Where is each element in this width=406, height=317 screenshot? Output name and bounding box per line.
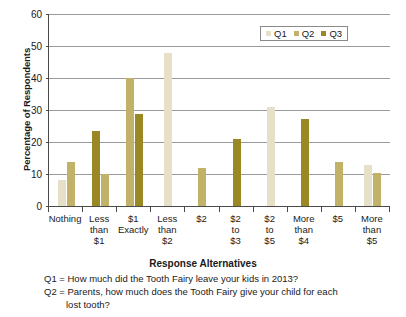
legend-item-q2[interactable]: Q2: [294, 28, 315, 39]
bar-group: [356, 14, 390, 206]
bar-group: [117, 14, 151, 206]
legend-label: Q1: [274, 28, 287, 39]
x-label-line: $2: [150, 235, 184, 246]
y-axis-ticks: 0102030405060: [16, 14, 46, 206]
x-label-line: $4: [287, 235, 321, 246]
bar-group: [49, 14, 83, 206]
x-label-line: Nothing: [48, 213, 82, 224]
bar-group: [185, 14, 219, 206]
x-label-line: than: [82, 224, 116, 235]
bar[interactable]: [233, 139, 241, 206]
y-tick-label-40: 40: [16, 73, 42, 84]
bar[interactable]: [58, 180, 66, 206]
x-label-line: Less: [150, 213, 184, 224]
x-label-line: to: [253, 224, 287, 235]
legend-label: Q2: [302, 28, 315, 39]
x-label-line: More: [355, 213, 389, 224]
y-tick-label-50: 50: [16, 41, 42, 52]
x-tick-mark: [184, 206, 185, 212]
bar-group: [322, 14, 356, 206]
x-tick-mark: [321, 206, 322, 212]
note-q2-line1: Q2 = Parents, how much does the Tooth Fa…: [44, 285, 374, 298]
bar[interactable]: [135, 114, 143, 206]
plot-area: [48, 14, 389, 206]
bar[interactable]: [301, 119, 309, 206]
x-category-label: Morethan$5: [355, 213, 389, 246]
bar[interactable]: [364, 165, 372, 206]
x-tick-mark: [389, 206, 390, 212]
x-tick-mark: [48, 206, 49, 212]
legend-item-q3[interactable]: Q3: [321, 28, 342, 39]
x-tick-mark: [116, 206, 117, 212]
x-label-line: $5: [355, 235, 389, 246]
x-label-line: $3: [219, 235, 253, 246]
x-label-line: to: [219, 224, 253, 235]
bar-group: [254, 14, 288, 206]
x-category-label: Lessthan$2: [150, 213, 184, 246]
x-tick-mark: [150, 206, 151, 212]
x-label-line: $5: [321, 213, 355, 224]
note-q1: Q1 = How much did the Tooth Fairy leave …: [44, 272, 374, 285]
x-category-label: Lessthan$1: [82, 213, 116, 246]
x-axis-category-labels: NothingLessthan$1$1ExactlyLessthan$2$2$2…: [48, 213, 389, 257]
x-label-line: than: [355, 224, 389, 235]
x-category-label: Morethan$4: [287, 213, 321, 246]
x-label-line: Less: [82, 213, 116, 224]
bar[interactable]: [335, 162, 343, 206]
bar[interactable]: [164, 53, 172, 206]
legend-swatch-icon: [294, 31, 299, 36]
x-label-line: $2: [184, 213, 218, 224]
y-tick-label-20: 20: [16, 137, 42, 148]
x-label-line: $1: [116, 213, 150, 224]
bar[interactable]: [67, 162, 75, 206]
legend-label: Q3: [329, 28, 342, 39]
bar[interactable]: [101, 174, 109, 206]
x-label-line: $5: [253, 235, 287, 246]
note-q2-line2: lost tooth?: [44, 298, 374, 311]
y-tick-label-30: 30: [16, 105, 42, 116]
bar[interactable]: [267, 107, 275, 206]
bar-group: [288, 14, 322, 206]
y-tick-label-0: 0: [16, 201, 42, 212]
x-category-label: Nothing: [48, 213, 82, 224]
bar-series-container: [49, 14, 390, 206]
x-category-label: $2: [184, 213, 218, 224]
legend-swatch-icon: [266, 31, 271, 36]
x-tick-mark: [253, 206, 254, 212]
bar[interactable]: [92, 131, 100, 206]
x-label-line: $2: [219, 213, 253, 224]
x-tick-mark: [82, 206, 83, 212]
bar-group: [151, 14, 185, 206]
x-label-line: than: [287, 224, 321, 235]
x-label-line: $1: [82, 235, 116, 246]
bar-group: [83, 14, 117, 206]
x-axis-tick-marks: [48, 206, 389, 212]
x-label-line: than: [150, 224, 184, 235]
chart-figure: Percentage of Respondents 0102030405060 …: [0, 0, 406, 317]
x-tick-mark: [219, 206, 220, 212]
y-tick-label-60: 60: [16, 9, 42, 20]
x-category-label: $2to$3: [219, 213, 253, 246]
bar-group: [220, 14, 254, 206]
x-axis-title: Response Alternatives: [0, 258, 406, 269]
legend-swatch-icon: [321, 31, 326, 36]
x-category-label: $2to$5: [253, 213, 287, 246]
bar[interactable]: [373, 173, 381, 206]
x-category-label: $1Exactly: [116, 213, 150, 235]
bar[interactable]: [198, 168, 206, 206]
x-tick-mark: [287, 206, 288, 212]
x-label-line: Exactly: [116, 224, 150, 235]
x-category-label: $5: [321, 213, 355, 224]
y-tick-label-10: 10: [16, 169, 42, 180]
chart-legend[interactable]: Q1Q2Q3: [260, 26, 348, 41]
x-label-line: More: [287, 213, 321, 224]
x-tick-mark: [355, 206, 356, 212]
x-label-line: $2: [253, 213, 287, 224]
chart-notes: Q1 = How much did the Tooth Fairy leave …: [44, 272, 374, 311]
bar[interactable]: [126, 78, 134, 206]
legend-item-q1[interactable]: Q1: [266, 28, 287, 39]
